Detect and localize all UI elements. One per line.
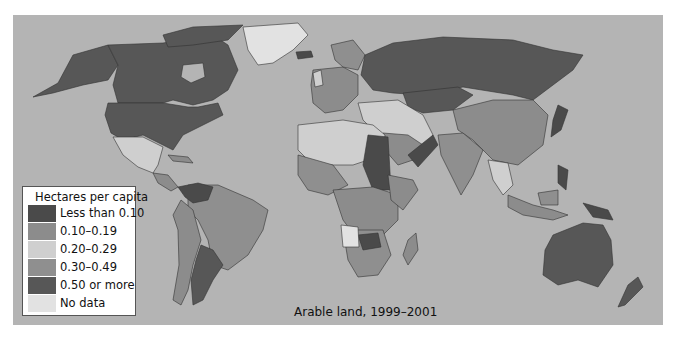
region-indonesia [508, 195, 568, 220]
region-mexico [113, 137, 163, 173]
legend-item-no-data: No data [28, 295, 136, 312]
legend-label: 0.30–0.49 [60, 260, 117, 274]
region-angola [341, 225, 359, 247]
legend-swatch [28, 277, 56, 294]
region-madagascar [403, 233, 418, 265]
legend-item-0-10-0-19: 0.10–0.19 [28, 223, 136, 240]
region-alaska [33, 45, 118, 97]
region-uk [313, 70, 323, 87]
legend-item-0-20-0-29: 0.20–0.29 [28, 241, 136, 258]
legend-label: 0.20–0.29 [60, 242, 117, 256]
legend-item-less-than-0-10: Less than 0.10 [28, 205, 136, 222]
region-russia [361, 37, 583, 100]
legend-swatch [28, 223, 56, 240]
legend-label: 0.10–0.19 [60, 224, 117, 238]
region-borneo [538, 190, 558, 205]
region-australia [543, 223, 613, 287]
legend-label: Less than 0.10 [60, 206, 144, 220]
region-egypt-sudan [363, 135, 391, 190]
region-japan [551, 105, 568, 137]
legend-item-0-50-or-more: 0.50 or more [28, 277, 136, 294]
legend-title: Hectares per capita [35, 190, 148, 204]
region-philippines [558, 165, 568, 190]
legend-swatch [28, 295, 56, 312]
legend-swatch [28, 241, 56, 258]
map-legend: Hectares per capita Less than 0.10 0.10–… [22, 186, 136, 316]
legend-swatch [28, 259, 56, 276]
region-scandinavia [331, 40, 365, 70]
map-caption: Arable land, 1999–2001 [294, 305, 437, 319]
legend-label: 0.50 or more [60, 278, 134, 292]
legend-label: No data [60, 296, 105, 310]
region-new-guinea [583, 203, 613, 220]
legend-swatch [28, 205, 56, 222]
legend-item-0-30-0-49: 0.30–0.49 [28, 259, 136, 276]
region-colombia-venezuela [178, 183, 213, 203]
region-new-zealand [618, 277, 643, 307]
